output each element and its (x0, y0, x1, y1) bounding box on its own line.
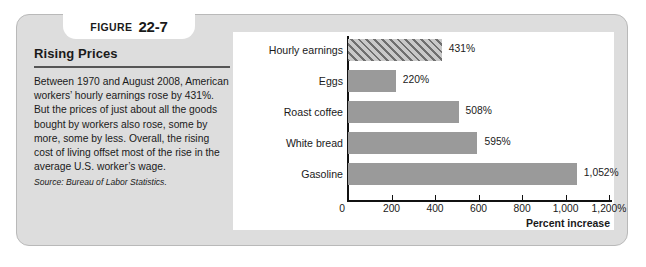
bar-category-label: White bread (233, 137, 343, 149)
bar-category-label: Roast coffee (233, 106, 343, 118)
bar (348, 39, 442, 61)
x-axis-tick (479, 195, 480, 201)
x-axis-tick (435, 195, 436, 201)
bar (348, 163, 577, 185)
bar (348, 101, 459, 123)
x-axis-tick (522, 195, 523, 201)
figure-number: 22-7 (138, 18, 167, 35)
bar (348, 132, 477, 154)
figure-label: FIGURE (90, 21, 132, 33)
bar-category-label: Eggs (233, 75, 343, 87)
figure-card: FIGURE 22-7 Rising Prices Between 1970 a… (16, 14, 628, 246)
bar (348, 70, 396, 92)
bar-category-label: Gasoline (233, 168, 343, 180)
chart-panel: 0 Percent increase Hourly earnings431%Eg… (233, 32, 614, 230)
x-axis-tick (392, 195, 393, 201)
x-axis-tick-label: 1,000 (553, 203, 579, 214)
caption-source: Source: Bureau of Labor Statistics. (34, 177, 230, 187)
x-axis-tick-label: 800 (513, 203, 530, 214)
bar-value-label: 595% (484, 136, 510, 147)
x-axis-tick-label: 400 (426, 203, 443, 214)
caption-panel: Rising Prices Between 1970 and August 20… (34, 46, 230, 187)
bar-row: Roast coffee508% (233, 101, 614, 123)
axis-tick-label-zero: 0 (333, 203, 345, 214)
bar-value-label: 220% (403, 74, 429, 85)
bar-value-label: 1,052% (584, 167, 619, 178)
caption-divider (34, 66, 230, 68)
bar-category-label: Hourly earnings (233, 44, 343, 56)
bar-row: Gasoline1,052% (233, 163, 614, 185)
x-axis-tick-label: 600 (470, 203, 487, 214)
bar-row: White bread595% (233, 132, 614, 154)
bar-row: Eggs220% (233, 70, 614, 92)
bar-value-label: 508% (466, 105, 492, 116)
bar-chart: 0 Percent increase Hourly earnings431%Eg… (233, 32, 614, 230)
x-axis-tick (566, 195, 567, 201)
x-axis-line (347, 200, 612, 202)
caption-title: Rising Prices (34, 46, 230, 61)
bar-value-label: 431% (449, 43, 475, 54)
x-axis-title: Percent increase (526, 217, 610, 229)
caption-body: Between 1970 and August 2008, American w… (34, 75, 230, 174)
bar-row: Hourly earnings431% (233, 39, 614, 61)
x-axis-tick (609, 195, 610, 201)
x-axis-tick-label: 200 (383, 203, 400, 214)
x-axis-tick-label: 1,200% (592, 203, 627, 214)
figure-number-tab: FIGURE 22-7 (63, 14, 195, 39)
